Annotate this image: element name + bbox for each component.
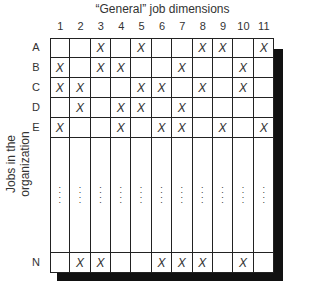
matrix-cell bbox=[193, 118, 213, 138]
matrix-cell: X bbox=[50, 118, 70, 138]
column-header: 5 bbox=[131, 20, 151, 32]
vertical-ellipsis-icon: ···· bbox=[221, 185, 224, 205]
matrix-cell bbox=[152, 98, 172, 118]
matrix-cell bbox=[50, 38, 70, 58]
column-header: 2 bbox=[70, 20, 90, 32]
matrix-cell bbox=[233, 98, 253, 118]
matrix-cell bbox=[91, 78, 111, 98]
matrix-cell bbox=[131, 118, 151, 138]
x-mark: X bbox=[219, 41, 227, 55]
x-mark: X bbox=[96, 256, 104, 270]
matrix-cell: X bbox=[172, 58, 192, 78]
matrix-cell: X bbox=[152, 118, 172, 138]
matrix-cell: X bbox=[131, 98, 151, 118]
x-mark: X bbox=[117, 61, 125, 75]
matrix-cell bbox=[131, 58, 151, 78]
vertical-ellipsis-icon: ···· bbox=[140, 185, 143, 205]
matrix-cell bbox=[172, 38, 192, 58]
matrix-cell bbox=[111, 253, 131, 273]
column-header: 6 bbox=[152, 20, 172, 32]
matrix-cell: X bbox=[50, 58, 70, 78]
matrix-cell bbox=[233, 118, 253, 138]
job-dimension-matrix: XXXXXXXXXXXXXXXXXXXXXXXXXX··············… bbox=[50, 38, 274, 273]
matrix-cell: X bbox=[172, 98, 192, 118]
x-mark: X bbox=[137, 81, 145, 95]
matrix-cell: X bbox=[152, 253, 172, 273]
matrix-cell bbox=[254, 253, 274, 273]
matrix-cell: X bbox=[152, 78, 172, 98]
grid-shadow-bottom bbox=[57, 273, 283, 281]
matrix-cell: X bbox=[50, 78, 70, 98]
matrix-cell: X bbox=[193, 253, 213, 273]
matrix-cell: X bbox=[91, 38, 111, 58]
column-header: 1 bbox=[50, 20, 70, 32]
ellipsis-cell: ···· bbox=[254, 138, 274, 253]
column-header: 4 bbox=[111, 20, 131, 32]
matrix-cell: X bbox=[172, 253, 192, 273]
matrix-cell: X bbox=[233, 58, 253, 78]
matrix-cell bbox=[213, 253, 233, 273]
vertical-ellipsis-icon: ···· bbox=[58, 185, 61, 205]
matrix-cell bbox=[152, 38, 172, 58]
matrix-cell: X bbox=[233, 78, 253, 98]
matrix-cell bbox=[131, 253, 151, 273]
matrix-cell bbox=[254, 78, 274, 98]
matrix-cell bbox=[254, 58, 274, 78]
vertical-ellipsis-icon: ···· bbox=[160, 185, 163, 205]
vertical-ellipsis-icon: ···· bbox=[119, 185, 122, 205]
matrix-cell: X bbox=[91, 253, 111, 273]
matrix-cell: X bbox=[193, 78, 213, 98]
column-header: 8 bbox=[193, 20, 213, 32]
ellipsis-cell: ···· bbox=[233, 138, 253, 253]
matrix-cell bbox=[111, 38, 131, 58]
matrix-cell bbox=[70, 38, 90, 58]
vertical-ellipsis-icon: ···· bbox=[262, 185, 265, 205]
x-mark: X bbox=[56, 61, 64, 75]
x-mark: X bbox=[219, 121, 227, 135]
column-header: 11 bbox=[254, 20, 274, 32]
matrix-cell: X bbox=[131, 78, 151, 98]
matrix-cell bbox=[213, 98, 233, 118]
ellipsis-cell: ···· bbox=[91, 138, 111, 253]
ellipsis-cell: ···· bbox=[172, 138, 192, 253]
row-header: A bbox=[30, 41, 42, 53]
matrix-cell: X bbox=[70, 78, 90, 98]
ellipsis-cell: ···· bbox=[111, 138, 131, 253]
matrix-cell bbox=[213, 58, 233, 78]
x-mark: X bbox=[137, 41, 145, 55]
column-header: 9 bbox=[213, 20, 233, 32]
matrix-cell: X bbox=[111, 118, 131, 138]
x-mark: X bbox=[178, 256, 186, 270]
x-mark: X bbox=[239, 256, 247, 270]
x-mark: X bbox=[76, 101, 84, 115]
matrix-cell: X bbox=[233, 253, 253, 273]
matrix-cell: X bbox=[70, 253, 90, 273]
matrix-cell: X bbox=[131, 38, 151, 58]
x-mark: X bbox=[117, 121, 125, 135]
matrix-cell: X bbox=[254, 118, 274, 138]
x-mark: X bbox=[56, 121, 64, 135]
x-mark: X bbox=[178, 61, 186, 75]
ellipsis-cell: ···· bbox=[70, 138, 90, 253]
matrix-cell bbox=[70, 58, 90, 78]
x-mark: X bbox=[239, 81, 247, 95]
x-mark: X bbox=[157, 256, 165, 270]
matrix-cell bbox=[91, 98, 111, 118]
diagram-title: “General” job dimensions bbox=[50, 2, 275, 16]
matrix-cell: X bbox=[70, 98, 90, 118]
vertical-ellipsis-icon: ···· bbox=[201, 185, 204, 205]
matrix-cell bbox=[233, 38, 253, 58]
ellipsis-cell: ···· bbox=[50, 138, 70, 253]
column-header: 10 bbox=[233, 20, 253, 32]
ellipsis-cell: ···· bbox=[193, 138, 213, 253]
matrix-cell: X bbox=[213, 118, 233, 138]
row-header: E bbox=[30, 121, 42, 133]
matrix-cell bbox=[50, 98, 70, 118]
grid-shadow-right bbox=[274, 49, 283, 281]
x-mark: X bbox=[157, 121, 165, 135]
x-mark: X bbox=[96, 61, 104, 75]
vertical-ellipsis-icon: ···· bbox=[99, 185, 102, 205]
column-header: 3 bbox=[91, 20, 111, 32]
matrix-cell: X bbox=[213, 38, 233, 58]
x-mark: X bbox=[198, 41, 206, 55]
